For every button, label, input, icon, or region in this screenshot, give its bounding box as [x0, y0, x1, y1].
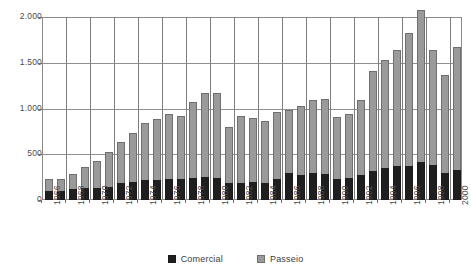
bar-segment-passeio	[117, 142, 125, 183]
x-axis-tick-label: 1976	[172, 185, 182, 205]
x-axis-tick-label: 1978	[196, 185, 206, 205]
chart-legend: Comercial Passeio	[0, 254, 471, 264]
bar-segment-passeio	[129, 133, 137, 181]
x-axis-tick	[257, 200, 258, 203]
x-axis-tick-label: 1998	[436, 185, 446, 205]
black-square-icon	[168, 255, 176, 263]
x-axis-tick	[185, 200, 186, 203]
bar-segment-passeio	[417, 10, 425, 162]
bar-segment-passeio	[249, 118, 257, 182]
bar-1999	[441, 75, 449, 200]
bar-segment-passeio	[345, 114, 353, 178]
x-axis-tick-label: 1994	[388, 185, 398, 205]
bar-segment-passeio	[141, 123, 149, 181]
bar-segment-passeio	[381, 60, 389, 168]
x-axis-tick-label: 1992	[364, 185, 374, 205]
bar-1980	[213, 93, 221, 200]
x-axis-tick-label: 1974	[148, 185, 158, 205]
x-axis-tick-label: 1980	[220, 185, 230, 205]
bar-segment-passeio	[297, 106, 305, 176]
bar-segment-passeio	[201, 93, 209, 177]
x-axis-tick	[209, 200, 210, 203]
bar-segment-passeio	[405, 33, 413, 166]
y-axis-tick-label: 2.000	[6, 12, 42, 21]
x-axis-tick	[377, 200, 378, 203]
x-axis: 1966196819701972197419761978198019821984…	[0, 200, 471, 248]
bar-segment-passeio	[153, 119, 161, 181]
bar-segment-passeio	[105, 152, 113, 187]
bar-2000	[453, 47, 461, 200]
bar-segment-passeio	[93, 161, 101, 188]
x-axis-tick	[329, 200, 330, 203]
bar-segment-passeio	[177, 116, 185, 178]
bar-1996	[405, 33, 413, 200]
y-axis-tick-label: 500	[6, 149, 42, 158]
x-axis-tick-label: 1996	[412, 185, 422, 205]
x-axis-tick	[401, 200, 402, 203]
bars-container	[43, 18, 461, 200]
x-axis-tick-label: 1990	[340, 185, 350, 205]
bar-1995	[393, 50, 401, 200]
x-axis-tick-label: 1970	[100, 185, 110, 205]
x-axis-tick	[137, 200, 138, 203]
bar-1979	[201, 93, 209, 200]
y-axis-tick-label: 1.500	[6, 58, 42, 67]
x-axis-tick-label: 1986	[292, 185, 302, 205]
bar-segment-passeio	[429, 50, 437, 164]
x-axis-tick	[425, 200, 426, 203]
bar-segment-passeio	[273, 112, 281, 179]
bar-segment-passeio	[393, 50, 401, 165]
x-axis-tick-label: 1968	[76, 185, 86, 205]
bar-segment-passeio	[369, 71, 377, 171]
legend-label-comercial: Comercial	[181, 254, 223, 264]
x-axis-tick	[353, 200, 354, 203]
bar-segment-passeio	[165, 114, 173, 179]
legend-item-passeio: Passeio	[257, 254, 303, 264]
x-axis-tick	[41, 200, 42, 203]
x-axis-tick	[233, 200, 234, 203]
bar-segment-passeio	[357, 100, 365, 175]
x-axis-tick	[305, 200, 306, 203]
bar-segment-passeio	[333, 117, 341, 179]
stacked-bar-chart: 05001.0001.5002.000 19661968197019721974…	[0, 0, 471, 276]
bar-segment-passeio	[441, 75, 449, 174]
bar-segment-passeio	[237, 116, 245, 183]
y-axis-tick-label: 1.000	[6, 104, 42, 113]
x-axis-tick	[161, 200, 162, 203]
bar-segment-passeio	[453, 47, 461, 170]
x-axis-tick	[89, 200, 90, 203]
gray-square-icon	[257, 255, 265, 263]
x-axis-tick-label: 1982	[244, 185, 254, 205]
x-axis-tick	[65, 200, 66, 203]
x-axis-tick-label: 1966	[52, 185, 62, 205]
legend-label-passeio: Passeio	[270, 254, 303, 264]
x-axis-tick-label: 1972	[124, 185, 134, 205]
x-axis-tick-label: 1988	[316, 185, 326, 205]
bar-segment-passeio	[213, 93, 221, 178]
x-axis-tick	[113, 200, 114, 203]
x-axis-tick-label: 1984	[268, 185, 278, 205]
x-axis-tick	[449, 200, 450, 203]
bar-segment-passeio	[309, 100, 317, 173]
x-axis-tick	[281, 200, 282, 203]
bar-1994	[381, 60, 389, 200]
bar-segment-passeio	[261, 121, 269, 182]
x-axis-tick-label: 2000	[460, 185, 470, 205]
bar-segment-passeio	[321, 99, 329, 174]
legend-item-comercial: Comercial	[168, 254, 223, 264]
bar-1993	[369, 71, 377, 200]
bar-1997	[417, 10, 425, 200]
bar-segment-passeio	[285, 110, 293, 173]
bar-segment-passeio	[225, 127, 233, 183]
bar-segment-passeio	[189, 102, 197, 178]
bar-1998	[429, 50, 437, 200]
